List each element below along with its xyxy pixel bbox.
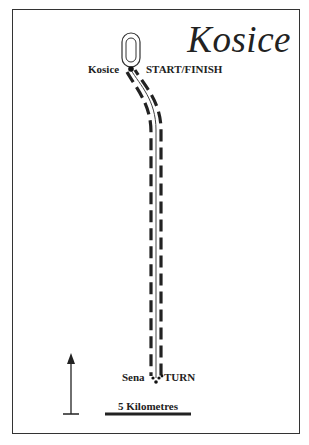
route-centerline	[131, 70, 156, 378]
turn-town-label: Sena	[122, 371, 145, 383]
scale-bar-label: 5 Kilometres	[118, 400, 178, 412]
route-outbound	[127, 72, 151, 376]
turn-label: TURN	[164, 371, 195, 383]
start-town-label: Kosice	[88, 63, 119, 75]
start-finish-label: START/FINISH	[146, 63, 222, 75]
start-loop-icon	[122, 33, 140, 67]
turn-point-icon	[151, 375, 163, 384]
start-point-icon	[128, 66, 134, 72]
north-arrow-icon	[63, 353, 79, 414]
route-return	[135, 70, 161, 376]
